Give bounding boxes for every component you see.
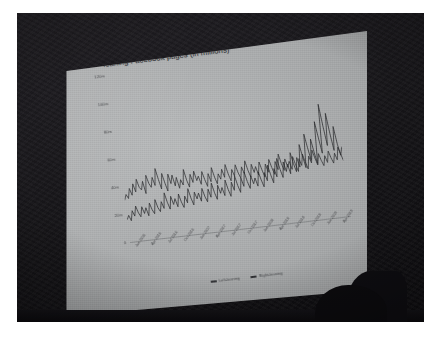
projection-screen: Total weekly engagement for the top 100 … <box>65 31 367 316</box>
series-line-left-leaning <box>121 147 345 201</box>
y-tick-label: 80m <box>104 129 113 135</box>
legend-label: Left-leaning <box>219 276 240 282</box>
legend-item: Left-leaning <box>210 276 240 283</box>
y-tick-label: 60m <box>107 157 116 163</box>
series-lines <box>109 49 351 242</box>
legend-swatch <box>210 281 216 283</box>
engagement-line-chart: 120m100m80m60m40m20m0 Jan 2016Apr 2016Ju… <box>87 49 354 271</box>
y-tick-label: 40m <box>111 184 120 190</box>
legend-swatch <box>251 276 257 278</box>
slide-content: Total weekly engagement for the top 100 … <box>65 31 367 316</box>
y-tick-label: 100m <box>98 101 109 107</box>
legend-item: Right-leaning <box>250 271 282 279</box>
plot-area <box>109 49 351 242</box>
y-tick-label: 120m <box>94 73 105 79</box>
slide-surface: Total weekly engagement for the top 100 … <box>65 31 367 316</box>
projector-photo: Total weekly engagement for the top 100 … <box>17 13 424 322</box>
legend-label: Right-leaning <box>259 271 283 278</box>
y-tick-label: 0 <box>123 240 126 245</box>
series-line-right-leaning <box>115 102 347 221</box>
y-tick-label: 20m <box>114 212 123 218</box>
